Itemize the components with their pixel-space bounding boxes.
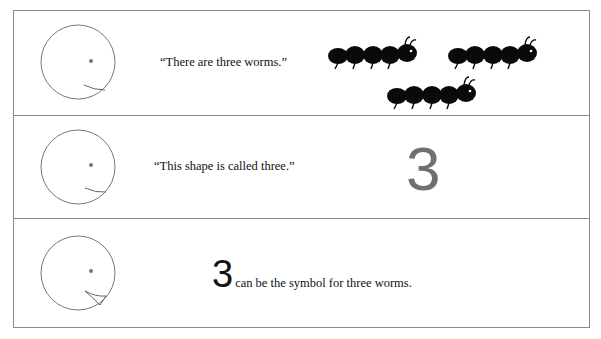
panel-symbol: 3can be the symbol for three worms. [13,218,590,328]
panel-three-worms: “There are three worms.” [13,10,590,116]
numeral-three: 3 [212,253,233,295]
worm-icon [326,35,422,73]
worm-icon [446,35,542,73]
speech-text: “There are three worms.” [160,55,287,70]
face-icon [38,233,118,313]
face-icon [38,127,118,207]
panel-shape-three: “This shape is called three.” 3 [13,115,590,219]
speech-text: “This shape is called three.” [154,159,295,174]
numeral-three: 3 [406,138,440,200]
symbol-sentence: 3can be the symbol for three worms. [212,255,412,293]
symbol-caption: can be the symbol for three worms. [235,276,412,290]
worm-icon [385,75,481,113]
face-icon [38,22,118,102]
